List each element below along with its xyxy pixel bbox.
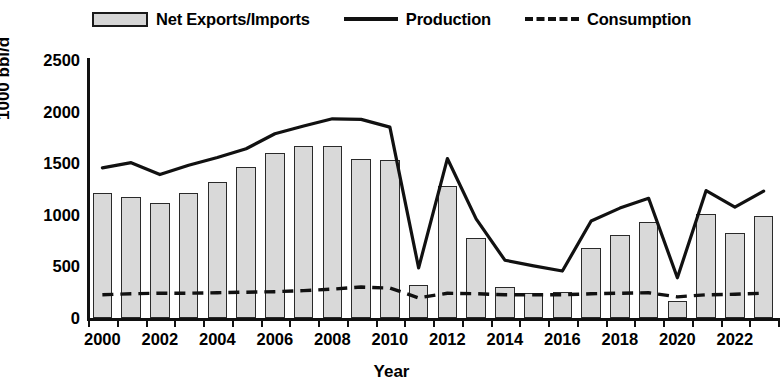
x-tick-mark <box>174 318 176 327</box>
x-tick-mark <box>117 318 119 327</box>
x-tick-label-2006: 2006 <box>257 330 294 349</box>
x-tick-label-2020: 2020 <box>659 330 696 349</box>
x-tick-mark <box>433 318 435 327</box>
x-tick-mark <box>146 318 148 327</box>
x-tick-label-2000: 2000 <box>84 330 121 349</box>
x-tick-label-2018: 2018 <box>602 330 639 349</box>
x-tick-mark <box>261 318 263 327</box>
consumption-line <box>102 287 763 298</box>
x-tick-mark <box>203 318 205 327</box>
x-tick-mark <box>548 318 550 327</box>
line-series-layer <box>88 60 778 318</box>
x-tick-label-2012: 2012 <box>429 330 466 349</box>
x-tick-label-2004: 2004 <box>199 330 236 349</box>
x-axis-title: Year <box>0 362 783 382</box>
x-tick-mark <box>692 318 694 327</box>
x-tick-label-2016: 2016 <box>544 330 581 349</box>
x-tick-mark <box>491 318 493 327</box>
x-tick-mark <box>663 318 665 327</box>
x-tick-label-2002: 2002 <box>142 330 179 349</box>
x-tick-mark <box>88 318 90 327</box>
x-tick-mark <box>347 318 349 327</box>
x-tick-mark <box>519 318 521 327</box>
x-tick-mark <box>634 318 636 327</box>
x-tick-mark <box>232 318 234 327</box>
x-tick-label-2014: 2014 <box>487 330 524 349</box>
x-tick-mark <box>404 318 406 327</box>
x-tick-mark <box>318 318 320 327</box>
x-tick-label-2022: 2022 <box>717 330 754 349</box>
x-tick-mark <box>606 318 608 327</box>
x-tick-mark <box>778 318 780 327</box>
x-tick-label-2008: 2008 <box>314 330 351 349</box>
plot-area <box>88 60 778 318</box>
x-tick-mark <box>289 318 291 327</box>
chart-root: Net Exports/Imports Production Consumpti… <box>0 0 783 389</box>
x-tick-mark <box>577 318 579 327</box>
production-line <box>102 119 763 278</box>
x-tick-mark <box>376 318 378 327</box>
x-tick-mark <box>721 318 723 327</box>
x-tick-label-2010: 2010 <box>372 330 409 349</box>
x-tick-mark <box>462 318 464 327</box>
x-tick-mark <box>749 318 751 327</box>
